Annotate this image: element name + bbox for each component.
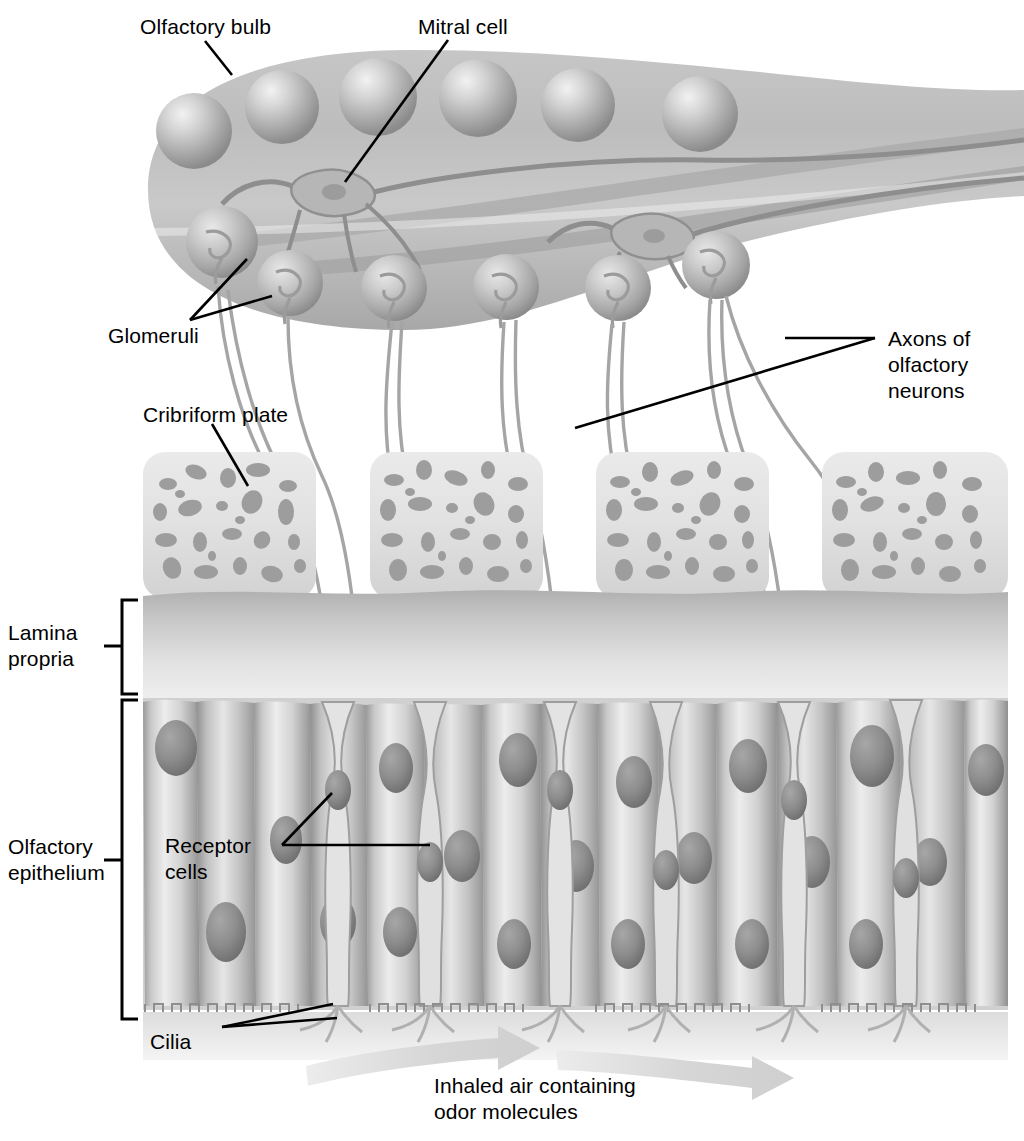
glomerulus: [585, 255, 651, 321]
label-mitral-cell: Mitral cell: [418, 14, 508, 39]
olfactory-epithelium-group: [143, 698, 1008, 1060]
glomerulus: [186, 206, 258, 278]
glomerulus: [473, 254, 539, 320]
leader-olfactory-bulb: [205, 41, 232, 75]
label-receptor-line2: cells: [165, 859, 208, 884]
anatomy-illustration: [0, 0, 1024, 1141]
label-cribriform-plate: Cribriform plate: [143, 402, 288, 427]
cribriform-block: [370, 452, 543, 599]
cribriform-block: [822, 452, 1008, 599]
label-airflow-line1: Inhaled air containing: [434, 1073, 636, 1098]
glomerulus: [361, 255, 427, 321]
label-olfactory-bulb: Olfactory bulb: [140, 14, 271, 39]
figure-canvas: Olfactory bulb Mitral cell Glomeruli Axo…: [0, 0, 1024, 1141]
label-epithelium-line1: Olfactory: [8, 834, 93, 859]
bracket-olfactory-epithelium: [122, 700, 138, 1019]
cribriform-block: [143, 452, 316, 599]
cribriform-block: [596, 452, 769, 599]
label-axons-line1: Axons of: [888, 326, 971, 351]
label-lamina-line2: propria: [8, 646, 74, 671]
glomerulus: [257, 250, 323, 316]
olfactory-bulb-group: [148, 50, 1024, 330]
label-axons-line2: olfactory: [888, 352, 968, 377]
cribriform-plate-group: [143, 452, 1008, 599]
glomerulus: [682, 231, 750, 299]
label-axons-line3: neurons: [888, 378, 965, 403]
label-receptor-line1: Receptor: [165, 833, 251, 858]
label-epithelium-line2: epithelium: [8, 860, 105, 885]
leader-axons-2: [575, 338, 875, 428]
label-airflow-line2: odor molecules: [434, 1099, 578, 1124]
lamina-propria-group: [143, 590, 1008, 700]
section-brackets: [104, 600, 138, 1019]
label-cilia: Cilia: [150, 1029, 191, 1054]
label-lamina-line1: Lamina: [8, 620, 77, 645]
label-glomeruli: Glomeruli: [108, 323, 199, 348]
bracket-lamina-propria: [122, 600, 138, 694]
lamina-propria-band: [143, 590, 1008, 700]
